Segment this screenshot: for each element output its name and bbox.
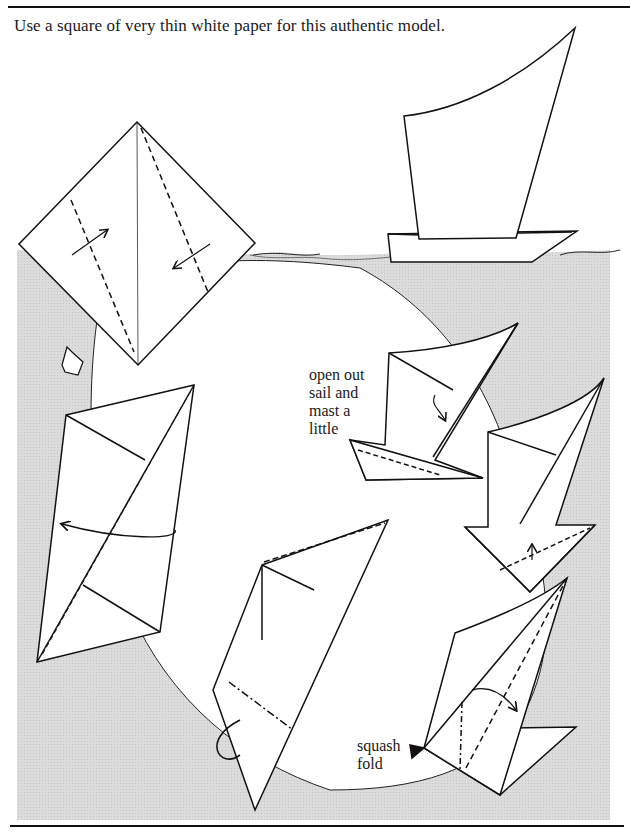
open-out-line-3: mast a [309,402,365,420]
squash-line-1: squash [357,737,401,755]
open-out-line-4: little [309,420,365,438]
squash-line-2: fold [357,755,401,773]
open-out-line-2: sail and [309,384,365,402]
open-out-label: open out sail and mast a little [309,366,365,438]
bottom-rule [10,825,624,827]
open-out-line-1: open out [309,366,365,384]
squash-fold-label: squash fold [357,737,401,773]
finished-boat-diagram [253,28,620,262]
